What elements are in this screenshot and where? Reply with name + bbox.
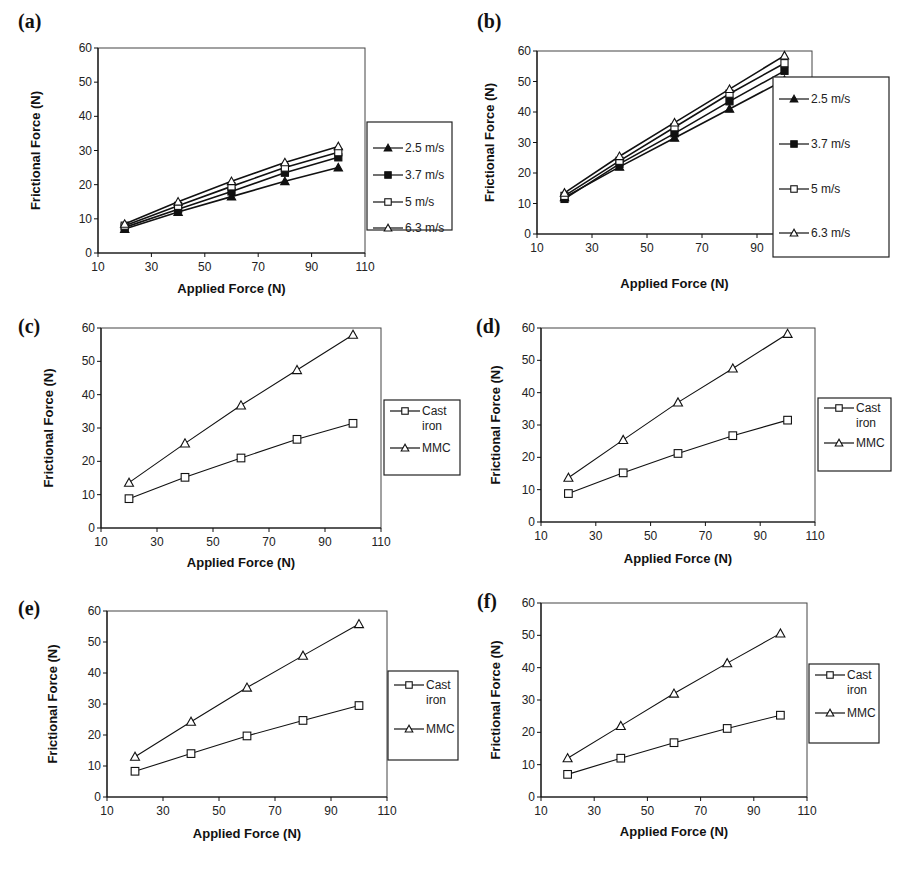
legend-marker (406, 682, 412, 688)
legend-label: Cast (847, 668, 872, 682)
y-tick-label: 60 (79, 41, 93, 55)
y-tick-label: 50 (518, 75, 532, 89)
y-axis-label: Frictional Force (N) (41, 368, 56, 487)
series-mmc (125, 330, 358, 486)
x-tick-label: 30 (589, 529, 603, 543)
x-tick-label: 30 (588, 804, 602, 818)
legend-label: iron (426, 693, 446, 707)
y-tick-label: 0 (528, 515, 535, 529)
data-point (617, 754, 625, 762)
legend-marker (791, 186, 797, 192)
x-axis-label: Applied Force (N) (193, 826, 301, 841)
x-tick-label: 50 (198, 260, 212, 274)
y-tick-label: 40 (82, 388, 96, 402)
legend-label: 5 m/s (811, 182, 840, 196)
legend: CastironMMC (388, 671, 458, 760)
y-tick-label: 50 (79, 75, 93, 89)
y-tick-label: 40 (518, 105, 532, 119)
y-tick-label: 10 (518, 197, 532, 211)
y-tick-label: 0 (85, 246, 92, 260)
chart-panel-a: (a)01020304050601030507090110Applied For… (18, 10, 452, 296)
data-point (349, 330, 358, 338)
series-2-5-m-s (560, 76, 788, 201)
x-tick-label: 90 (747, 804, 761, 818)
legend-marker (385, 172, 391, 178)
legend: 2.5 m/s3.7 m/s5 m/s6.3 m/s (773, 77, 889, 257)
legend-label: Cast (422, 404, 447, 418)
data-point (670, 118, 678, 126)
y-axis-label: Frictional Force (N) (45, 644, 60, 763)
data-point (784, 416, 792, 424)
data-point (125, 495, 133, 503)
y-tick-label: 0 (528, 790, 535, 804)
y-tick-label: 30 (522, 418, 536, 432)
series-2-5-m-s (121, 163, 343, 232)
series-cast-iron (564, 711, 784, 778)
data-point (131, 752, 140, 760)
y-tick-label: 40 (79, 109, 93, 123)
x-tick-label: 10 (534, 529, 548, 543)
y-tick-label: 20 (522, 450, 536, 464)
x-tick-label: 50 (644, 529, 658, 543)
y-tick-label: 40 (522, 661, 536, 675)
panel-label: (e) (18, 597, 40, 620)
chart-panel-b: (b)01020304050601030507090Applied Force … (477, 10, 889, 291)
data-point (187, 750, 195, 758)
data-point (293, 436, 301, 444)
data-point (299, 717, 307, 725)
legend-label: 6.3 m/s (811, 226, 850, 240)
legend-label: 6.3 m/s (405, 221, 444, 235)
legend-label: MMC (847, 706, 876, 720)
y-tick-label: 50 (82, 354, 96, 368)
x-tick-label: 10 (91, 260, 105, 274)
y-tick-label: 60 (88, 604, 102, 618)
data-point (725, 105, 733, 113)
legend-label: iron (422, 419, 442, 433)
panel-label: (c) (18, 315, 40, 338)
y-tick-label: 0 (94, 790, 101, 804)
x-tick-label: 70 (695, 241, 709, 255)
y-tick-label: 0 (88, 521, 95, 535)
legend-marker (402, 408, 408, 414)
plot-frame (541, 603, 807, 797)
x-tick-label: 10 (94, 535, 108, 549)
x-tick-label: 50 (641, 804, 655, 818)
y-tick-label: 20 (518, 166, 532, 180)
y-tick-label: 10 (82, 488, 96, 502)
y-tick-label: 20 (82, 454, 96, 468)
legend-label: iron (856, 416, 876, 430)
y-tick-label: 10 (88, 759, 102, 773)
legend-label: 5 m/s (405, 195, 434, 209)
data-point (674, 398, 683, 406)
legend: CastironMMC (818, 398, 891, 471)
data-point (776, 629, 785, 637)
data-point (564, 473, 573, 481)
data-point (728, 364, 737, 372)
data-point (619, 469, 627, 477)
x-tick-label: 110 (805, 529, 824, 543)
x-tick-label: 70 (694, 804, 708, 818)
y-tick-label: 30 (79, 144, 93, 158)
data-point (187, 717, 196, 725)
series-6-3-m-s (560, 51, 788, 196)
data-point (674, 450, 682, 458)
x-tick-label: 70 (699, 529, 713, 543)
y-tick-label: 50 (522, 353, 536, 367)
x-tick-label: 30 (145, 260, 159, 274)
data-point (131, 767, 139, 775)
legend: 2.5 m/s3.7 m/s5 m/s6.3 m/s (367, 122, 452, 235)
y-axis-label: Frictional Force (N) (28, 91, 43, 210)
data-point (619, 435, 628, 443)
x-tick-label: 90 (750, 241, 764, 255)
x-tick-label: 110 (377, 804, 396, 818)
data-point (615, 152, 623, 160)
x-tick-label: 30 (585, 241, 599, 255)
data-point (355, 702, 363, 710)
data-point (726, 98, 733, 105)
legend-label: Cast (856, 401, 881, 415)
data-point (783, 329, 792, 337)
x-tick-label: 90 (318, 535, 332, 549)
data-point (616, 721, 625, 729)
legend-label: 3.7 m/s (405, 168, 444, 182)
plot-frame (101, 328, 381, 528)
